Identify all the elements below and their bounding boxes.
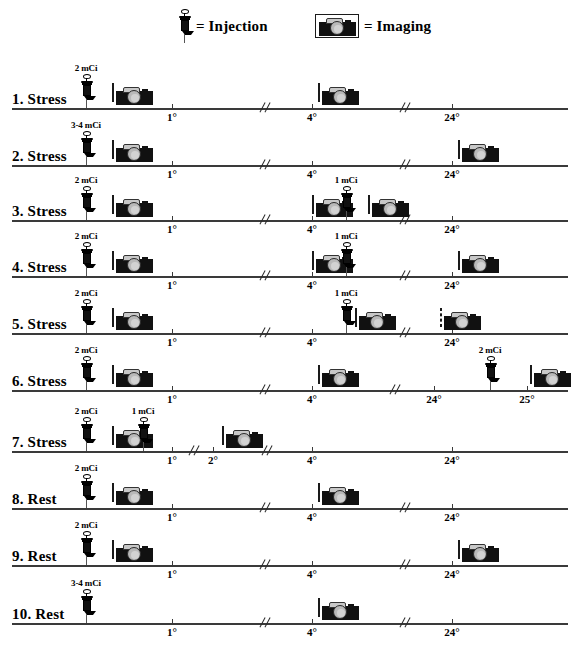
axis-tick xyxy=(312,329,313,334)
protocol-row[interactable]: 10. Rest1°4°24°3-4 mCi xyxy=(0,583,580,639)
injection-dose-label: 2 mCi xyxy=(75,406,98,416)
axis-break-mark xyxy=(259,271,273,281)
axis-tick-label: 4° xyxy=(307,223,317,235)
protocol-label: 3. Stress xyxy=(12,203,67,220)
axis-break-mark xyxy=(399,160,413,170)
axis-tick xyxy=(312,104,313,109)
imaging-marker[interactable] xyxy=(112,196,114,214)
imaging-marker[interactable] xyxy=(458,141,460,159)
camera-icon xyxy=(318,598,320,617)
timeline-axis xyxy=(12,165,568,167)
imaging-marker[interactable] xyxy=(112,252,114,270)
injection-dose-label: 1 mCi xyxy=(335,288,358,298)
imaging-marker[interactable] xyxy=(112,541,114,559)
imaging-marker[interactable] xyxy=(318,366,320,384)
axis-tick xyxy=(452,216,453,221)
injection-dose-label: 2 mCi xyxy=(75,175,98,185)
axis-break-mark xyxy=(259,385,273,395)
axis-tick xyxy=(434,386,435,391)
protocol-row[interactable]: 9. Rest1°4°24°2 mCi xyxy=(0,525,580,581)
axis-tick-label: 24° xyxy=(426,393,441,405)
imaging-marker[interactable] xyxy=(112,309,114,327)
axis-tick-label: 4° xyxy=(307,511,317,523)
camera-icon xyxy=(440,308,442,327)
protocol-label: 6. Stress xyxy=(12,373,67,390)
axis-tick-label: 1° xyxy=(167,111,177,123)
imaging-marker[interactable] xyxy=(112,484,114,502)
legend-item-injection: = Injection xyxy=(178,6,268,46)
timeline-axis xyxy=(12,220,568,222)
axis-tick xyxy=(452,272,453,277)
camera-icon xyxy=(222,426,224,445)
timeline-axis xyxy=(12,108,568,110)
axis-break-mark xyxy=(259,618,273,628)
injection-dose-label: 3-4 mCi xyxy=(71,578,101,588)
imaging-marker[interactable] xyxy=(318,599,320,617)
imaging-marker[interactable] xyxy=(312,196,314,214)
protocol-row[interactable]: 8. Rest1°4°24°2 mCi xyxy=(0,468,580,524)
imaging-marker[interactable] xyxy=(222,427,224,445)
axis-tick xyxy=(452,104,453,109)
legend: = Injection = Imaging xyxy=(0,6,580,46)
protocol-row[interactable]: 1. Stress1°4°24°2 mCi xyxy=(0,68,580,124)
imaging-marker[interactable] xyxy=(440,309,442,327)
imaging-marker[interactable] xyxy=(458,252,460,270)
timeline-axis xyxy=(12,390,568,392)
protocol-label: 1. Stress xyxy=(12,91,67,108)
protocol-label: 10. Rest xyxy=(12,606,64,623)
imaging-marker[interactable] xyxy=(458,541,460,559)
axis-tick xyxy=(312,161,313,166)
axis-tick-label: 24° xyxy=(444,336,459,348)
imaging-marker[interactable] xyxy=(112,427,114,445)
imaging-marker[interactable] xyxy=(112,141,114,159)
camera-icon xyxy=(112,483,114,502)
axis-tick xyxy=(312,504,313,509)
imaging-marker[interactable] xyxy=(112,366,114,384)
axis-break-mark xyxy=(399,103,413,113)
axis-tick xyxy=(172,619,173,624)
protocol-row[interactable]: 3. Stress1°4°24°2 mCi1 mCi xyxy=(0,180,580,236)
camera-icon xyxy=(318,365,320,384)
protocol-row[interactable]: 4. Stress1°4°24°2 mCi1 mCi xyxy=(0,236,580,292)
axis-tick xyxy=(172,104,173,109)
injection-dose-label: 1 mCi xyxy=(132,406,155,416)
axis-tick-label: 2° xyxy=(208,454,218,466)
protocol-row[interactable]: 5. Stress1°4°24°2 mCi1 mCi xyxy=(0,293,580,349)
axis-tick-label: 24° xyxy=(444,454,459,466)
protocol-row[interactable]: 2. Stress1°4°24°3-4 mCi xyxy=(0,125,580,181)
injection-dose-label: 3-4 mCi xyxy=(71,120,101,130)
imaging-marker[interactable] xyxy=(318,84,320,102)
axis-break-mark xyxy=(259,560,273,570)
timeline-axis xyxy=(12,565,568,567)
axis-break-mark xyxy=(259,503,273,513)
axis-tick xyxy=(452,561,453,566)
protocol-row[interactable]: 7. Stress1°2°4°24°2 mCi1 mCi xyxy=(0,411,580,467)
axis-break-mark xyxy=(259,103,273,113)
protocol-label: 2. Stress xyxy=(12,148,67,165)
imaging-marker[interactable] xyxy=(368,196,370,214)
imaging-marker[interactable] xyxy=(112,84,114,102)
legend-equals-imaging: = xyxy=(364,19,373,34)
axis-tick-label: 24° xyxy=(444,111,459,123)
imaging-marker[interactable] xyxy=(318,484,320,502)
axis-tick xyxy=(172,272,173,277)
axis-tick xyxy=(312,216,313,221)
injection-dose-label: 2 mCi xyxy=(75,463,98,473)
axis-tick-label: 4° xyxy=(307,454,317,466)
camera-icon xyxy=(318,483,320,502)
protocol-label: 7. Stress xyxy=(12,434,67,451)
axis-tick xyxy=(172,561,173,566)
injection-dose-label: 2 mCi xyxy=(75,345,98,355)
axis-break-mark xyxy=(399,271,413,281)
imaging-marker[interactable] xyxy=(312,252,314,270)
protocol-row[interactable]: 6. Stress1°4°24°25°2 mCi2 mCi xyxy=(0,350,580,406)
axis-break-mark xyxy=(259,215,273,225)
axis-tick-label: 4° xyxy=(307,111,317,123)
imaging-marker[interactable] xyxy=(530,366,532,384)
camera-icon xyxy=(112,365,114,384)
axis-tick xyxy=(172,329,173,334)
axis-break-mark xyxy=(399,328,413,338)
injection-dose-label: 1 mCi xyxy=(335,231,358,241)
axis-break-mark xyxy=(259,328,273,338)
axis-tick-label: 4° xyxy=(307,393,317,405)
